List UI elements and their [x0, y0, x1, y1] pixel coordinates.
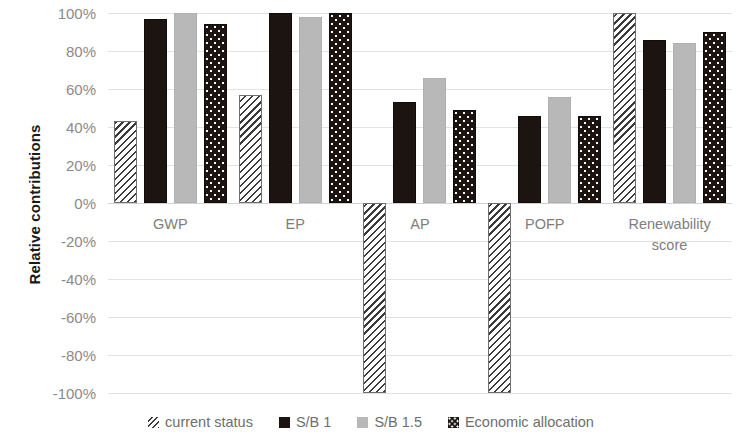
bar [453, 110, 476, 203]
bar [393, 102, 416, 203]
y-axis-tick-9: -80% [61, 348, 96, 363]
bar [613, 13, 636, 203]
legend-swatch-icon [448, 417, 459, 428]
legend-item: S/B 1.5 [357, 414, 422, 430]
bar-groups [108, 0, 732, 400]
category-label: EP [233, 205, 358, 256]
bars-container [233, 0, 358, 400]
bar [204, 24, 227, 203]
bar-group [607, 0, 732, 400]
bars-container [358, 0, 483, 400]
legend-item: current status [148, 414, 253, 430]
y-axis-tick-6: -20% [61, 234, 96, 249]
bars-container [607, 0, 732, 400]
bar [269, 13, 292, 203]
bar [673, 43, 696, 203]
bar-chart-figure: Relative contributions 100%80%60%40%20%0… [0, 0, 742, 444]
bar [239, 95, 262, 203]
plot-area [108, 0, 732, 400]
y-axis-tick-7: -40% [61, 272, 96, 287]
category-label: Renewabilityscore [607, 205, 732, 256]
bar [114, 121, 137, 203]
legend-swatch-icon [148, 417, 159, 428]
bar [299, 17, 322, 203]
y-axis-tick-10: -100% [53, 386, 96, 401]
y-axis-tick-0: 100% [58, 6, 96, 21]
y-axis-tick-5: 0% [74, 196, 96, 211]
bar-group [108, 0, 233, 400]
bar [174, 13, 197, 203]
bar [144, 19, 167, 203]
category-label-line: POFP [482, 214, 607, 235]
category-label-line: Renewability [607, 214, 732, 235]
legend-label: Economic allocation [465, 414, 594, 430]
bar [423, 78, 446, 203]
legend-label: current status [165, 414, 253, 430]
legend-label: S/B 1.5 [374, 414, 422, 430]
legend-item: S/B 1 [279, 414, 331, 430]
bar [329, 13, 352, 203]
legend-swatch-icon [279, 417, 290, 428]
category-label-line: EP [233, 214, 358, 235]
bars-container [482, 0, 607, 400]
bars-container [108, 0, 233, 400]
chart-legend: current statusS/B 1S/B 1.5Economic alloc… [0, 414, 742, 430]
legend-item: Economic allocation [448, 414, 594, 430]
y-axis-tick-1: 80% [66, 44, 96, 59]
category-label: POFP [482, 205, 607, 256]
category-label: AP [358, 205, 483, 256]
bar-group [233, 0, 358, 400]
bar [703, 32, 726, 203]
y-axis-tick-8: -60% [61, 310, 96, 325]
bar [643, 40, 666, 203]
category-label-line: AP [358, 214, 483, 235]
bar-group [482, 0, 607, 400]
bar-group [358, 0, 483, 400]
y-axis-tick-labels: 100%80%60%40%20%0%-20%-40%-60%-80%-100% [0, 0, 104, 400]
category-label-line: score [607, 235, 732, 256]
category-label: GWP [108, 205, 233, 256]
legend-label: S/B 1 [296, 414, 331, 430]
bar [548, 97, 571, 203]
y-axis-tick-2: 60% [66, 82, 96, 97]
x-axis-category-labels: GWPEPAPPOFPRenewabilityscore [108, 205, 732, 256]
bar [518, 116, 541, 203]
y-axis-tick-4: 20% [66, 158, 96, 173]
y-axis-tick-3: 40% [66, 120, 96, 135]
category-label-line: GWP [108, 214, 233, 235]
legend-swatch-icon [357, 417, 368, 428]
bar [578, 116, 601, 203]
